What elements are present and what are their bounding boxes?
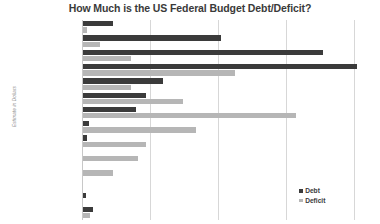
bar-row: Hundreds xyxy=(82,206,370,221)
bar-deficit xyxy=(83,170,113,175)
y-axis-title: Estimate in Dollars xyxy=(12,71,17,143)
legend-swatch-icon xyxy=(299,189,303,193)
bar-debt xyxy=(83,93,146,98)
bar-row: Ten Trillions xyxy=(82,49,370,64)
bar-deficit xyxy=(83,42,100,47)
bar-debt xyxy=(83,193,86,198)
bar-row: Billions xyxy=(82,106,370,121)
bar-deficit xyxy=(83,85,131,90)
bar-row: Millions xyxy=(82,149,370,164)
bar-row: Thousands xyxy=(82,191,370,206)
bar-debt xyxy=(83,21,113,26)
bar-deficit xyxy=(83,142,146,147)
bar-row: Ten Millions xyxy=(82,134,370,149)
chart-title: How Much is the US Federal Budget Debt/D… xyxy=(0,2,380,14)
legend-label: Deficit xyxy=(305,196,325,206)
bar-debt xyxy=(83,121,89,126)
bar-debt xyxy=(83,35,221,40)
bar-deficit xyxy=(83,127,196,132)
bar-deficit xyxy=(83,56,131,61)
bar-row: Hundred Millions xyxy=(82,120,370,135)
bar-row: Quadrillions xyxy=(82,20,370,35)
bar-debt xyxy=(83,64,357,69)
plot-area: QuadrillionsHundred TrillionsTen Trillio… xyxy=(82,20,370,220)
legend-label: Debt xyxy=(305,186,320,196)
bar-debt xyxy=(83,78,163,83)
bar-debt xyxy=(83,107,136,112)
bar-chart: How Much is the US Federal Budget Debt/D… xyxy=(0,0,380,224)
chart-legend: DebtDeficit xyxy=(299,186,325,205)
bar-row: Hundred Trillions xyxy=(82,34,370,49)
bar-row: Ten Billions xyxy=(82,91,370,106)
bar-row: Hundred Billions xyxy=(82,77,370,92)
bar-row: Trillions xyxy=(82,63,370,78)
bar-debt xyxy=(83,207,93,212)
bar-deficit xyxy=(83,213,90,218)
bar-row: Ten Thousands xyxy=(82,177,370,192)
legend-item-deficit: Deficit xyxy=(299,196,325,206)
bar-deficit xyxy=(83,156,138,161)
legend-item-debt: Debt xyxy=(299,186,325,196)
bar-row: Hundred Thousands xyxy=(82,163,370,178)
bar-debt xyxy=(83,50,323,55)
bar-deficit xyxy=(83,27,87,32)
legend-swatch-icon xyxy=(299,199,303,203)
bar-deficit xyxy=(83,70,235,75)
bar-deficit xyxy=(83,113,296,118)
bar-deficit xyxy=(83,99,183,104)
bar-debt xyxy=(83,135,87,140)
